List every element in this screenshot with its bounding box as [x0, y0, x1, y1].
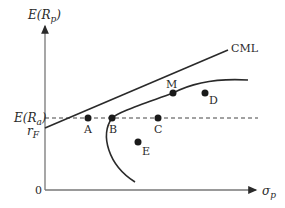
origin-label: 0: [35, 184, 42, 197]
point-b-label: B: [109, 123, 117, 136]
cml-label: CML: [231, 42, 259, 55]
cml-diagram: E(Rp) 0 σp E(Ra) rF CML A B M C D E: [0, 0, 285, 208]
point-m-label: M: [166, 78, 177, 91]
point-a-label: A: [83, 123, 93, 136]
point-a: [85, 115, 92, 122]
cml-line: [45, 50, 228, 128]
y-axis-label: E(Rp): [27, 8, 61, 24]
point-d-label: D: [209, 94, 218, 107]
point-e-label: E: [142, 145, 150, 158]
x-axis-label: σp: [262, 184, 276, 200]
point-c: [155, 115, 162, 122]
point-b: [109, 115, 116, 122]
point-d: [202, 90, 209, 97]
point-c-label: C: [154, 123, 162, 136]
efficient-frontier-curve: [107, 80, 248, 182]
point-e: [135, 139, 142, 146]
